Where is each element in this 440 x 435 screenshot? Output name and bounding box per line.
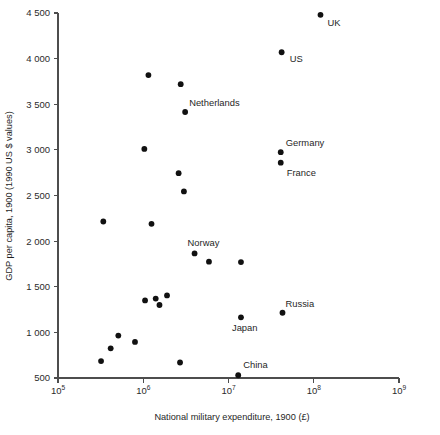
data-point[interactable]: [192, 251, 198, 257]
x-tick-exponent: 7: [232, 384, 236, 391]
data-point-label: France: [287, 167, 316, 178]
y-axis: 4 5004 0003 5003 0002 5002 0001 5001 000…: [26, 7, 58, 383]
data-point[interactable]: [149, 221, 155, 227]
x-tick-label: 108: [307, 384, 322, 396]
data-point[interactable]: [132, 339, 138, 345]
data-point[interactable]: [278, 149, 284, 155]
data-point-label: UK: [328, 17, 342, 28]
x-tick-label: 106: [136, 384, 151, 396]
data-point[interactable]: [318, 12, 324, 18]
y-tick-label: 3 500: [26, 99, 50, 110]
plot-canvas: 4 5004 0003 5003 0002 5002 0001 5001 000…: [0, 0, 440, 435]
x-axis-title: National military expenditure, 1900 (£): [154, 412, 309, 422]
y-tick-label: 4 000: [26, 53, 50, 64]
data-point[interactable]: [146, 72, 152, 78]
x-tick-exponent: 9: [402, 384, 406, 391]
y-tick-label: 500: [34, 372, 50, 383]
data-point[interactable]: [157, 302, 163, 308]
x-tick-exponent: 8: [317, 384, 321, 391]
x-tick-label: 105: [51, 384, 66, 396]
data-point[interactable]: [182, 109, 188, 115]
y-tick-label: 2 500: [26, 190, 50, 201]
data-point-label: US: [290, 53, 303, 64]
data-point[interactable]: [206, 259, 212, 265]
data-point[interactable]: [108, 345, 114, 351]
data-point[interactable]: [164, 293, 170, 299]
y-tick-label: 4 500: [26, 7, 50, 18]
y-axis-title: GDP per capita, 1900 (1990 US $ values): [4, 111, 14, 280]
y-tick-label: 2 000: [26, 236, 50, 247]
data-point-label: Russia: [286, 298, 315, 309]
data-point[interactable]: [280, 310, 286, 316]
data-point[interactable]: [181, 188, 187, 194]
data-point[interactable]: [238, 259, 244, 265]
y-tick-label: 1 000: [26, 327, 50, 338]
data-point-label: Japan: [232, 322, 258, 333]
data-point[interactable]: [142, 298, 148, 304]
scatter-chart-figure: 4 5004 0003 5003 0002 5002 0001 5001 000…: [0, 0, 440, 435]
x-axis: 105106107108109: [51, 378, 407, 396]
data-point[interactable]: [141, 146, 147, 152]
y-tick-label: 3 000: [26, 144, 50, 155]
x-tick-label: 107: [221, 384, 236, 396]
data-point[interactable]: [98, 358, 104, 364]
data-point[interactable]: [238, 314, 244, 320]
data-point[interactable]: [115, 333, 121, 339]
data-point-label: Germany: [286, 137, 325, 148]
x-tick-exponent: 5: [61, 384, 65, 391]
data-points-layer: UKUSNetherlandsGermanyFranceNorwayRussia…: [98, 12, 341, 378]
data-point-label: China: [243, 359, 268, 370]
data-point-label: Netherlands: [189, 97, 240, 108]
data-point[interactable]: [278, 160, 284, 166]
data-point[interactable]: [279, 49, 285, 55]
data-point[interactable]: [235, 372, 241, 378]
data-point[interactable]: [153, 296, 159, 302]
x-tick-label: 109: [392, 384, 407, 396]
x-tick-exponent: 6: [147, 384, 151, 391]
data-point[interactable]: [177, 360, 183, 366]
data-point-label: Norway: [188, 237, 220, 248]
y-tick-label: 1 500: [26, 281, 50, 292]
data-point[interactable]: [100, 219, 106, 225]
data-point[interactable]: [178, 81, 184, 87]
data-point[interactable]: [176, 170, 182, 176]
